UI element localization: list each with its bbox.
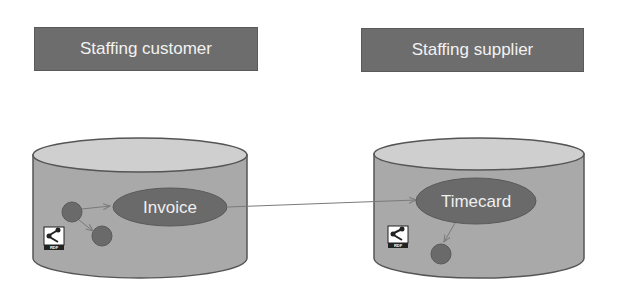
rdf-icon: RDF [388, 226, 408, 248]
supplier-child-node[interactable] [431, 244, 451, 264]
timecard-node[interactable]: Timecard [416, 178, 536, 224]
svg-text:RDF: RDF [50, 245, 59, 250]
customer-child-node-1[interactable] [62, 202, 82, 222]
timecard-label: Timecard [441, 192, 511, 211]
invoice-label: Invoice [143, 198, 197, 217]
customer-child-node-2[interactable] [92, 226, 112, 246]
invoice-node[interactable]: Invoice [113, 188, 227, 226]
svg-text:RDF: RDF [394, 243, 403, 248]
rdf-icon: RDF [44, 227, 64, 250]
diagram-canvas: Invoice RDF Timecard RDF [0, 0, 620, 297]
